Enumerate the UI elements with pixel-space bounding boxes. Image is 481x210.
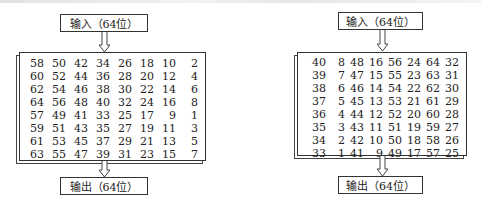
left-input-box: 输入（64位） [60,14,148,32]
table-cell: 61 [26,135,44,148]
table-cell: 46 [70,83,88,96]
table-cell: 16 [367,56,383,69]
table-cell: 38 [310,82,326,95]
right-input-label: 输入（64位） [346,13,415,29]
table-cell: 31 [443,69,459,82]
table-cell: 56 [386,56,402,69]
table-cell: 24 [405,56,421,69]
table-cell: 43 [70,122,88,135]
table-cell: 13 [367,95,383,108]
table-cell: 45 [348,95,364,108]
table-cell: 25 [443,147,459,160]
table-cell: 12 [367,108,383,121]
table-cell: 35 [92,122,110,135]
table-cell: 63 [424,69,440,82]
table-cell: 27 [114,122,132,135]
table-cell: 7 [329,69,345,82]
table-cell: 41 [70,109,88,122]
table-cell: 54 [386,82,402,95]
table-cell: 52 [386,108,402,121]
table-cell: 10 [367,134,383,147]
table-cell: 33 [92,109,110,122]
table-cell: 59 [424,121,440,134]
table-cell: 58 [424,134,440,147]
table-cell: 7 [180,148,198,161]
left-input-label: 输入（64位） [70,15,139,31]
table-cell: 23 [136,148,154,161]
table-cell: 38 [92,83,110,96]
table-cell: 20 [405,108,421,121]
table-cell: 30 [114,83,132,96]
table-cell: 51 [48,122,66,135]
left-output-box: 输出（64位） [60,177,148,195]
table-cell: 8 [329,56,345,69]
table-cell: 4 [329,108,345,121]
table-cell: 51 [386,121,402,134]
table-cell: 46 [348,82,364,95]
table-cell: 31 [114,148,132,161]
table-cell: 18 [405,134,421,147]
table-cell: 36 [92,70,110,83]
table-cell: 21 [136,135,154,148]
table-cell: 9 [158,109,176,122]
table-cell: 11 [158,122,176,135]
table-cell: 1 [329,147,345,160]
down-arrow-icon [99,161,107,178]
table-cell: 41 [348,147,364,160]
table-cell: 24 [136,96,154,109]
table-cell: 26 [114,57,132,70]
table-cell: 37 [310,95,326,108]
table-cell: 5 [329,95,345,108]
table-cell: 21 [405,95,421,108]
table-cell: 63 [26,148,44,161]
table-cell: 56 [48,96,66,109]
table-cell: 44 [348,108,364,121]
table-cell: 49 [386,147,402,160]
table-cell: 49 [48,109,66,122]
table-cell: 15 [158,148,176,161]
table-cell: 29 [443,95,459,108]
table-cell: 3 [329,121,345,134]
table-cell: 28 [443,108,459,121]
table-cell: 39 [92,148,110,161]
table-cell: 1 [180,109,198,122]
table-cell: 17 [136,109,154,122]
table-cell: 48 [70,96,88,109]
left-permutation-table: 5850423426181026052443628201246254463830… [19,52,206,161]
table-cell: 61 [424,95,440,108]
table-cell: 47 [348,69,364,82]
table-cell: 25 [114,109,132,122]
table-cell: 13 [158,135,176,148]
table-cell: 23 [405,69,421,82]
table-cell: 32 [114,96,132,109]
table-cell: 17 [405,147,421,160]
table-cell: 2 [180,57,198,70]
table-cell: 11 [367,121,383,134]
table-cell: 64 [26,96,44,109]
table-cell: 35 [310,121,326,134]
table-cell: 62 [424,82,440,95]
table-cell: 44 [70,70,88,83]
table-cell: 26 [443,134,459,147]
table-cell: 43 [348,121,364,134]
table-cell: 14 [367,82,383,95]
table-cell: 2 [329,134,345,147]
table-cell: 12 [158,70,176,83]
down-arrow-icon [99,32,107,53]
right-output-box: 输出（64位） [338,176,423,194]
table-cell: 50 [386,134,402,147]
table-cell: 60 [424,108,440,121]
table-cell: 37 [92,135,110,148]
table-cell: 10 [158,57,176,70]
table-cell: 22 [136,83,154,96]
table-cell: 29 [114,135,132,148]
table-cell: 27 [443,121,459,134]
table-cell: 45 [70,135,88,148]
table-cell: 42 [70,57,88,70]
table-cell: 55 [386,69,402,82]
table-cell: 64 [424,56,440,69]
table-cell: 60 [26,70,44,83]
right-permutation-table: 4084816562464323974715552363313864614542… [297,52,467,156]
right-input-box: 输入（64位） [338,12,423,30]
table-cell: 59 [26,122,44,135]
